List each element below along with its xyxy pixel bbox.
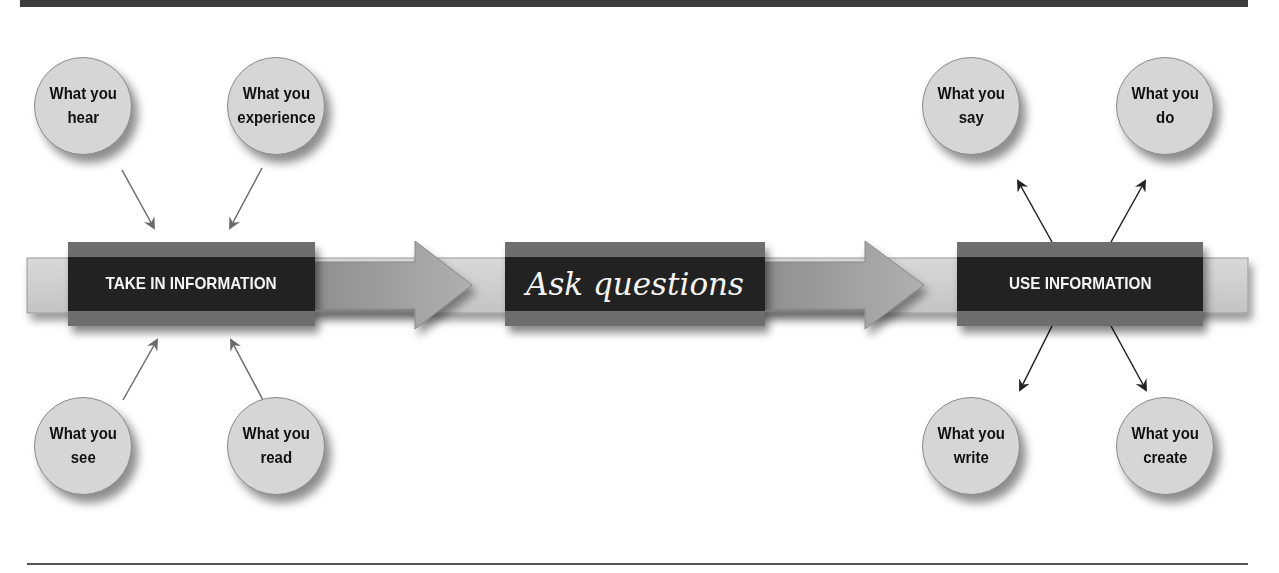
stripe bbox=[505, 242, 765, 257]
output-circle-do: What youdo bbox=[1116, 57, 1214, 155]
stripe bbox=[505, 311, 765, 326]
connector-say bbox=[1018, 181, 1052, 242]
input-circle-experience: What youexperience bbox=[227, 57, 325, 155]
connector-write bbox=[1020, 326, 1052, 390]
stage-label: USE INFORMATION bbox=[1009, 274, 1152, 294]
stage-take-in-information: TAKE IN INFORMATION bbox=[68, 242, 315, 326]
stage-ask-questions: Ask questions bbox=[505, 242, 765, 326]
stripe bbox=[68, 311, 315, 326]
input-circle-read: What youread bbox=[227, 397, 325, 495]
stage-label: TAKE IN INFORMATION bbox=[106, 274, 277, 294]
input-circle-see: What yousee bbox=[34, 397, 132, 495]
connector-do bbox=[1111, 181, 1145, 242]
flow-arrow-2 bbox=[765, 241, 924, 329]
input-circle-hear: What youhear bbox=[34, 57, 132, 155]
stage-label: Ask questions bbox=[526, 266, 744, 302]
stripe bbox=[957, 311, 1203, 326]
stage-use-information: USE INFORMATION bbox=[957, 242, 1203, 326]
connector-hear bbox=[122, 170, 154, 228]
stripe bbox=[957, 242, 1203, 257]
stripe bbox=[68, 242, 315, 257]
output-circle-write: What youwrite bbox=[922, 397, 1020, 495]
connector-experience bbox=[230, 168, 262, 228]
connector-create bbox=[1111, 326, 1146, 390]
bottom-rule bbox=[27, 563, 1248, 565]
output-circle-say: What yousay bbox=[922, 57, 1020, 155]
connector-read bbox=[231, 340, 263, 400]
flow-arrow-1 bbox=[315, 241, 472, 329]
connector-see bbox=[123, 340, 157, 400]
output-circle-create: What youcreate bbox=[1116, 397, 1214, 495]
